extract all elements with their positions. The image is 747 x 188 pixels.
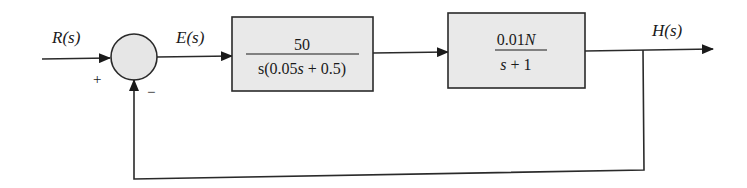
plant-denominator: s + 1 (500, 56, 531, 73)
controller-numerator: 50 (294, 36, 310, 53)
plant-numerator: 0.01N (497, 31, 537, 48)
output-label: H(s) (651, 21, 683, 40)
output-signal-line (585, 49, 713, 51)
intermediate-signal-line (373, 52, 448, 53)
summing-junction (111, 34, 157, 80)
minus-sign: − (147, 84, 155, 100)
input-signal-line (42, 58, 110, 59)
plus-sign: + (93, 71, 101, 87)
controller-block: 50 s(0.05s + 0.5) (232, 17, 373, 91)
block-diagram: R(s) + − E(s) 50 s(0.05s + 0.5) 0.01N s … (0, 0, 747, 188)
controller-denominator: s(0.05s + 0.5) (258, 60, 346, 78)
input-label: R(s) (51, 28, 81, 47)
plant-block: 0.01N s + 1 (448, 13, 585, 88)
error-signal-line (157, 56, 232, 57)
error-label: E(s) (175, 28, 205, 47)
